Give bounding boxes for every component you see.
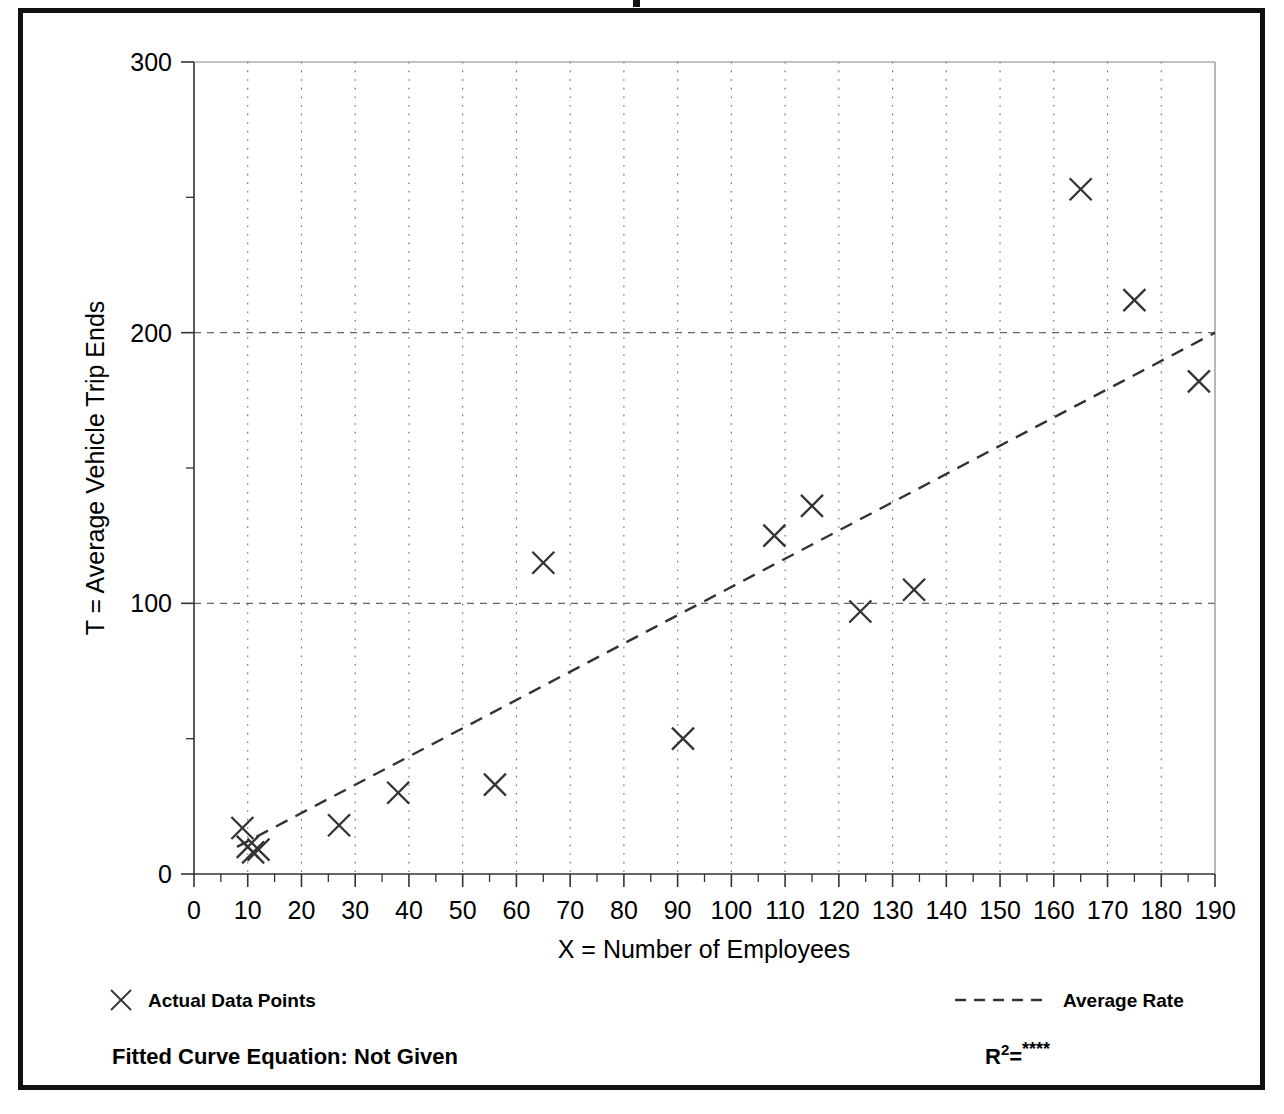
x-axis-tick-label: 170	[1087, 896, 1129, 924]
data-point-marker	[1070, 178, 1092, 200]
x-axis-tick-label: 130	[872, 896, 914, 924]
x-axis-tick-label: 190	[1194, 896, 1236, 924]
data-point-marker	[387, 782, 409, 804]
data-point-marker	[484, 774, 506, 796]
x-axis-tick-label: 30	[341, 896, 369, 924]
x-axis-tick-label: 0	[187, 896, 201, 924]
plot-container: 0102030405060708090100110120130140150160…	[0, 0, 1284, 1114]
x-axis-tick-label: 40	[395, 896, 423, 924]
x-axis-tick-label: 110	[765, 896, 805, 924]
r-squared-prefix: R	[985, 1044, 1001, 1069]
x-axis-tick-label: 150	[979, 896, 1021, 924]
x-axis-tick-label: 120	[818, 896, 860, 924]
x-axis-tick-label: 180	[1140, 896, 1182, 924]
x-axis-tick-label: 80	[610, 896, 638, 924]
x-axis-tick-label: 100	[711, 896, 753, 924]
x-axis-tick-label: 60	[503, 896, 531, 924]
r-squared-annotation: R2=****	[985, 1039, 1050, 1069]
y-axis-tick-label: 0	[158, 860, 172, 888]
legend-label-actual-data-points: Actual Data Points	[148, 990, 316, 1011]
r-squared-value: ****	[1022, 1039, 1050, 1059]
data-point-marker	[1123, 289, 1145, 311]
axis-ticks-group	[181, 62, 1215, 887]
data-point-marker	[801, 495, 823, 517]
y-axis-tick-label: 300	[130, 48, 172, 76]
y-axis-tick-label: 200	[130, 319, 172, 347]
axes-group	[194, 62, 1215, 874]
gridlines-group	[194, 62, 1215, 874]
scatter-chart: 0102030405060708090100110120130140150160…	[0, 0, 1284, 1114]
data-point-marker	[763, 525, 785, 547]
x-axis-tick-label: 70	[556, 896, 584, 924]
x-axis-title: X = Number of Employees	[558, 935, 851, 963]
fitted-curve-equation-label: Fitted Curve Equation: Not Given	[112, 1044, 458, 1069]
data-points-group	[231, 178, 1210, 863]
data-point-marker	[672, 728, 694, 750]
x-axis-tick-label: 140	[925, 896, 967, 924]
y-axis-title: T = Average Vehicle Trip Ends	[81, 301, 109, 636]
x-axis-tick-label: 160	[1033, 896, 1075, 924]
figure-page: 0102030405060708090100110120130140150160…	[0, 0, 1284, 1114]
legend-label-average-rate: Average Rate	[1063, 990, 1184, 1011]
r-squared-superscript: 2	[1001, 1041, 1009, 1058]
x-axis-tick-label: 20	[288, 896, 316, 924]
trendline-group	[237, 333, 1215, 847]
x-axis-tick-label: 10	[234, 896, 262, 924]
data-point-marker	[903, 579, 925, 601]
legend-marker-data-points	[111, 990, 131, 1010]
trendline-average-rate	[237, 333, 1215, 847]
data-point-marker	[328, 814, 350, 836]
y-axis-tick-label: 100	[130, 589, 172, 617]
data-point-marker	[231, 817, 253, 839]
x-axis-tick-label: 50	[449, 896, 477, 924]
r-squared-equals: =	[1009, 1044, 1022, 1069]
x-axis-tick-label: 90	[664, 896, 692, 924]
data-point-marker	[1188, 370, 1210, 392]
data-point-marker	[532, 552, 554, 574]
